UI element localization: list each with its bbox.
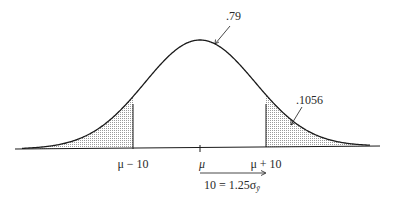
tick-label-mu-plus-10: μ + 10: [250, 157, 281, 171]
distance-label: 10 = 1.25σȳ: [204, 178, 260, 193]
tail-area-label: .1056: [296, 93, 323, 107]
tail-pointer: [291, 107, 302, 125]
peak-pointer: [215, 26, 230, 44]
tick-label-mu-minus-10: μ − 10: [117, 157, 148, 171]
peak-value-label: .79: [226, 9, 241, 23]
normal-curve-diagram: .79 .1056 μ − 10 μ μ + 10 10 = 1.25σȳ: [0, 0, 394, 202]
tick-label-mu: μ: [198, 157, 205, 171]
left-tail-shading: [40, 97, 133, 149]
